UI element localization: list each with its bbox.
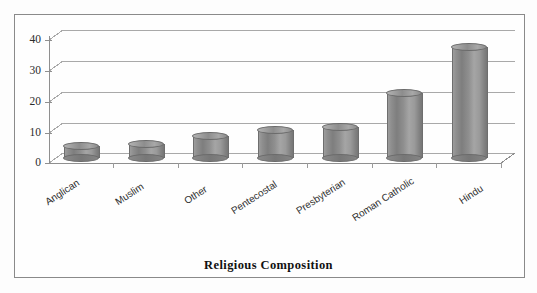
bar-anglican <box>64 146 98 158</box>
bar-top-cap <box>128 140 164 148</box>
y-tick-label-20: 20 <box>15 95 41 107</box>
bar-hindu <box>452 47 486 158</box>
y-tick-label-30: 30 <box>15 64 41 76</box>
bar-top-cap <box>322 123 358 131</box>
chart-screenshot: 40 30 20 10 0 <box>0 0 537 293</box>
y-tick-label-0: 0 <box>15 156 41 168</box>
bar-body <box>387 93 423 158</box>
bar-presbyterian <box>323 127 357 158</box>
bar-bottom-cap <box>63 154 99 162</box>
bar-top-cap <box>257 126 293 134</box>
bar-top-cap <box>63 142 99 150</box>
bar-pentecostal <box>258 130 292 158</box>
bar-bottom-cap <box>322 154 358 162</box>
plot-area: 40 30 20 10 0 <box>0 0 537 293</box>
bar-body <box>452 47 488 158</box>
bar-top-cap <box>386 89 422 97</box>
bar-top-cap <box>192 132 228 140</box>
y-tick-label-10: 10 <box>15 126 41 138</box>
bar-roman-catholic <box>387 93 421 158</box>
bar-bottom-cap <box>192 154 228 162</box>
axis-title: Religious Composition <box>0 258 537 273</box>
bar-muslim <box>129 144 163 158</box>
bar-bottom-cap <box>128 154 164 162</box>
bar-bottom-cap <box>386 154 422 162</box>
bar-bottom-cap <box>257 154 293 162</box>
bar-top-cap <box>451 43 487 51</box>
y-tick-label-40: 40 <box>15 33 41 45</box>
bar-bottom-cap <box>451 154 487 162</box>
bar-other <box>193 136 227 158</box>
